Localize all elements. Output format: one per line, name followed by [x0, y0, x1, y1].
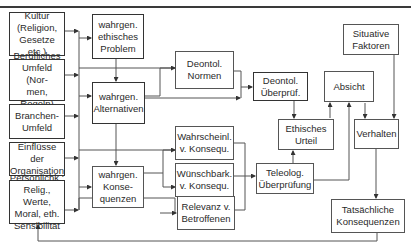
node-verhalten: Verhalten: [354, 119, 399, 149]
node-branchen-umfeld: Branchen- Umfeld: [9, 104, 65, 139]
node-ethisches-problem: wahrgen. ethisches Problem: [92, 14, 144, 59]
node-deontol-ueberpruefung-label: Deontol. Überprüf.: [261, 75, 301, 99]
edge-alternativen-normen: [144, 68, 175, 96]
node-ethisches-problem-label: wahrgen. ethisches Problem: [98, 19, 138, 55]
node-deontol-normen-label: Deontol. Normen: [187, 58, 222, 82]
node-konsequenzen-label: wahrgen. Konse- quenzen: [98, 169, 137, 205]
node-berufliches-umfeld-label: Berufliches Umfeld (Nor- men, Regeln): [10, 50, 64, 110]
node-tatsaechliche-konsequenzen: Tatsächliche Konsequenzen: [331, 199, 405, 233]
node-situative-faktoren: Situative Faktoren: [343, 24, 399, 55]
node-relevanz: Relevanz v. Betroffenen: [177, 196, 235, 230]
node-teleolog-ueberpruefung-label: Teleolog. Überprüfung: [259, 167, 312, 191]
node-wuenschbarkeit-label: Wünschbark. v. Konsequ.: [177, 168, 232, 192]
node-alternativen-label: wahrgen. Alternativen: [93, 91, 143, 115]
node-einfluesse-organisation: Einflüsse der Organisation: [9, 142, 65, 176]
node-alternativen: wahrgen. Alternativen: [92, 82, 145, 124]
node-persoenlichkeit: Persönlichk.: Relig., Werte, Moral, eth.…: [9, 180, 65, 224]
node-wuenschbarkeit: Wünschbark. v. Konsequ.: [175, 163, 234, 197]
node-persoenlichkeit-label: Persönlichk.: Relig., Werte, Moral, eth.…: [10, 172, 64, 232]
node-absicht: Absicht: [324, 71, 374, 102]
node-relevanz-label: Relevanz v. Betroffenen: [182, 201, 231, 225]
node-deontol-normen: Deontol. Normen: [175, 51, 234, 89]
node-absicht-label: Absicht: [333, 81, 364, 93]
edge-konseq-wahrsch: [163, 150, 175, 173]
node-ethisches-urteil: Ethisches Urteil: [278, 119, 334, 150]
node-teleolog-ueberpruefung: Teleolog. Überprüfung: [256, 163, 314, 194]
node-tatsaechliche-konsequenzen-label: Tatsächliche Konsequenzen: [336, 204, 399, 228]
node-verhalten-label: Verhalten: [356, 128, 396, 140]
node-deontol-ueberpruefung: Deontol. Überprüf.: [253, 72, 308, 101]
edge-konseq-wuensch: [163, 173, 175, 187]
edge-normen-deontol: [233, 71, 252, 87]
node-konsequenzen: wahrgen. Konse- quenzen: [92, 166, 144, 208]
node-wahrscheinlichkeit-label: Wahrscheinl. v. Konsequ.: [177, 131, 232, 155]
node-wahrscheinlichkeit: Wahrscheinl. v. Konsequ.: [175, 126, 234, 160]
node-berufliches-umfeld: Berufliches Umfeld (Nor- men, Regeln): [9, 59, 65, 101]
node-ethisches-urteil-label: Ethisches Urteil: [285, 123, 326, 147]
node-situative-faktoren-label: Situative Faktoren: [352, 28, 390, 52]
node-branchen-umfeld-label: Branchen- Umfeld: [15, 110, 59, 134]
